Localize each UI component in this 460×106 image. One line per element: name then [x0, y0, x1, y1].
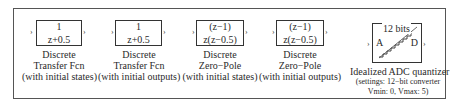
label-line: Transfer Fcn: [22, 60, 96, 71]
output-port-icon: ›: [245, 28, 248, 36]
numerator: 1: [134, 21, 143, 32]
label-line: Transfer Fcn: [98, 60, 180, 71]
input-port-icon: ›: [111, 28, 114, 36]
input-port-icon: ›: [272, 28, 275, 36]
settings-line: Vmin: 0, Vmax: 5): [350, 87, 446, 97]
block-label: Discrete Transfer Fcn (with initial stat…: [22, 49, 96, 82]
input-port-icon: ›: [367, 40, 370, 48]
label-line: Zero−Pole: [180, 60, 260, 71]
numerator: 1: [55, 21, 64, 32]
output-port-label: D: [411, 37, 418, 48]
block-label: Discrete Transfer Fcn (with initial outp…: [98, 49, 180, 82]
input-port-icon: ›: [30, 28, 33, 36]
output-port-icon: ›: [163, 28, 166, 36]
label-line: Zero−Pole: [258, 60, 342, 71]
denominator: z(z−0.5): [201, 34, 239, 45]
label-line: Idealized ADC quantizer: [350, 66, 446, 77]
input-port-label: A: [376, 37, 383, 48]
bits-label: 12 bits: [382, 23, 411, 34]
block-label: Discrete Zero−Pole (with initial states): [180, 49, 260, 82]
label-line: Discrete: [22, 49, 96, 60]
denominator: z+0.5: [125, 34, 152, 45]
denominator: z+0.5: [46, 34, 73, 45]
label-line: Discrete: [98, 49, 180, 60]
block-label: Discrete Zero−Pole (with initial outputs…: [258, 49, 342, 82]
output-port-icon: ›: [325, 28, 328, 36]
settings-line: (settings: 12−bit converter: [350, 77, 446, 87]
denominator: z(z−0.5): [281, 34, 319, 45]
label-line: (with initial states): [22, 71, 96, 82]
output-port-icon: ›: [83, 28, 86, 36]
label-line: (with initial outputs): [98, 71, 180, 82]
numerator: (z−1): [207, 21, 233, 32]
output-port-icon: ›: [423, 40, 426, 48]
block-label: Idealized ADC quantizer (settings: 12−bi…: [350, 66, 446, 97]
label-line: (with initial outputs): [258, 71, 342, 82]
input-port-icon: ›: [192, 28, 195, 36]
label-line: Discrete: [180, 49, 260, 60]
numerator: (z−1): [287, 21, 313, 32]
label-line: (with initial states): [180, 71, 260, 82]
label-line: Discrete: [258, 49, 342, 60]
